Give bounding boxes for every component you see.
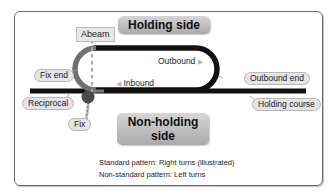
inbound-arrow-icon: ◀ — [116, 79, 121, 89]
non-standard-pattern-note: Non-standard pattern: Left turns — [99, 169, 205, 180]
non-holding-side-label: Non-holding side — [117, 113, 209, 145]
outbound-leg-label: Outbound ▶ — [158, 56, 203, 67]
fix-label: Fix — [68, 118, 91, 131]
outbound-arrow-icon: ▶ — [198, 57, 203, 67]
inbound-text: Inbound — [123, 78, 154, 88]
holding-course-label: Holding course — [252, 98, 321, 111]
fix-end-label: Fix end — [34, 69, 74, 82]
reciprocal-label: Reciprocal — [22, 97, 74, 110]
inbound-leg-label: ◀ Inbound — [116, 78, 154, 89]
standard-pattern-note: Standard pattern: Right turns (illustrat… — [99, 157, 234, 168]
outbound-end-label: Outbound end — [244, 72, 310, 85]
abeam-label: Abeam — [76, 27, 115, 42]
fix-point — [82, 91, 95, 104]
outbound-leg-and-turn — [94, 48, 217, 90]
holding-side-label: Holding side — [118, 16, 210, 34]
outbound-text: Outbound — [158, 56, 195, 66]
